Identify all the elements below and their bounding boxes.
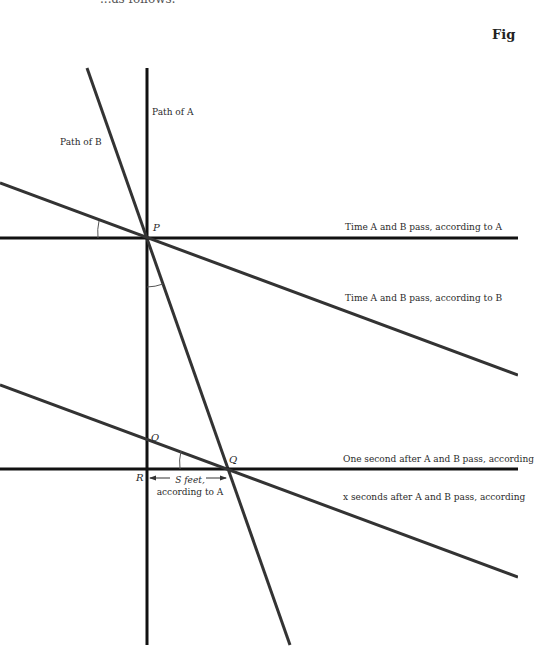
path-b-line (87, 68, 290, 645)
x-seconds-b-line (0, 385, 518, 577)
s-feet-label: S feet, according to A (152, 474, 228, 498)
point-o-label: O (151, 432, 159, 443)
angle-arc-below-p (147, 284, 163, 287)
angle-arc-left-p (98, 221, 99, 238)
time-pass-b-label: Time A and B pass, according to B (345, 293, 502, 303)
simultaneity-b-line (0, 183, 518, 375)
time-pass-a-label: Time A and B pass, according to A (345, 222, 502, 232)
s-feet-line2: according to A (152, 486, 228, 498)
path-a-label: Path of A (152, 107, 193, 117)
point-q-label: Q (229, 454, 237, 465)
angle-arc-q (180, 451, 181, 469)
x-seconds-after-label: x seconds after A and B pass, according (343, 492, 525, 502)
s-feet-line1: S feet, (152, 474, 228, 486)
point-r-label: R (136, 472, 144, 483)
path-b-label: Path of B (60, 137, 102, 147)
one-second-after-label: One second after A and B pass, according (343, 454, 534, 464)
point-p-label: P (153, 222, 160, 233)
